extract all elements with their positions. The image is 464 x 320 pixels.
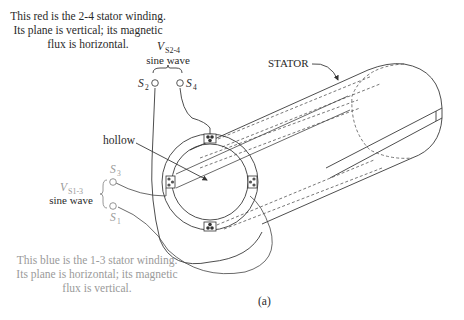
terminals-s24	[152, 65, 184, 86]
terminal-s1	[110, 203, 117, 210]
source-s13-label: S 3 V S1-3 sine wave S 1	[49, 163, 121, 226]
red-annotation-line1: This red is the 2-4 stator winding.	[10, 10, 166, 23]
stator-pointer-arrow	[312, 64, 338, 80]
stator-winding-diagram: This red is the 2-4 stator winding. Its …	[0, 0, 464, 320]
slot-bottom	[204, 222, 216, 231]
terminal-s2	[152, 80, 159, 87]
terminal-s1-main: S	[110, 211, 116, 223]
terminal-s3	[110, 179, 117, 186]
slot-top	[204, 134, 216, 143]
blue-annotation-line1: This blue is the 1-3 stator winding.	[17, 254, 178, 267]
stator-cylinder	[176, 64, 442, 229]
stator-label: STATOR	[268, 57, 309, 69]
slot-left	[166, 176, 175, 188]
terminal-s4-sub: 4	[193, 83, 197, 92]
wave-s13: sine wave	[49, 194, 93, 206]
terminal-s2-main: S	[138, 77, 144, 89]
blue-annotation-line3: flux is vertical.	[62, 282, 131, 294]
hollow-pointer-arrow	[136, 143, 207, 180]
terminal-s4-main: S	[186, 77, 192, 89]
red-winding-annotation: This red is the 2-4 stator winding. Its …	[10, 10, 166, 50]
figure-caption: (a)	[258, 295, 271, 308]
red-annotation-line2: Its plane is vertical; its magnetic	[13, 24, 162, 37]
terminal-s1-sub: 1	[117, 217, 121, 226]
wave-s24: sine wave	[146, 54, 190, 66]
blue-annotation-line2: Its plane is horizontal; its magnetic	[16, 268, 177, 281]
hollow-label: hollow	[103, 134, 136, 146]
terminal-s3-main: S	[110, 163, 116, 175]
terminals-s13	[100, 179, 116, 210]
blue-winding-annotation: This blue is the 1-3 stator winding. Its…	[16, 254, 177, 294]
slot-right	[248, 176, 257, 188]
terminal-s4	[177, 80, 184, 87]
red-annotation-line3: flux is horizontal.	[47, 38, 129, 50]
diagram-canvas: This red is the 2-4 stator winding. Its …	[0, 0, 464, 320]
stator-front-face	[162, 134, 258, 230]
terminal-s2-sub: 2	[145, 83, 149, 92]
terminal-s3-sub: 3	[117, 169, 121, 178]
